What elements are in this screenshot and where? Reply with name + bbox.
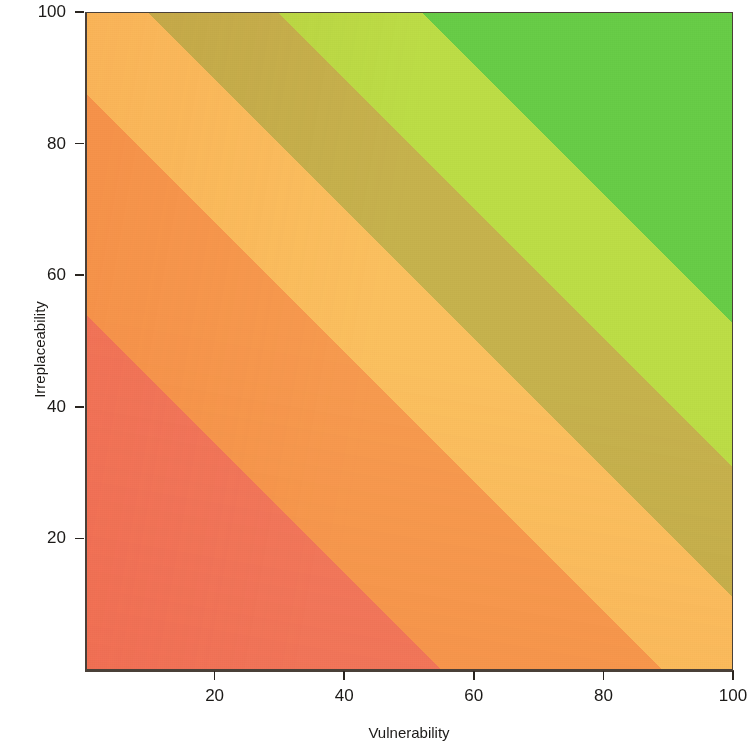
x-tick-label: 100 [719, 686, 747, 706]
x-tick-label: 40 [335, 686, 354, 706]
heatmap-surface [86, 13, 732, 669]
x-tick-label: 60 [464, 686, 483, 706]
plot-panel [85, 12, 733, 670]
y-tick-label: 100 [0, 2, 66, 22]
x-tick-label: 80 [594, 686, 613, 706]
x-tick-mark [343, 671, 345, 680]
x-axis-line [85, 670, 734, 672]
x-tick-mark [732, 671, 734, 680]
x-tick-label: 20 [205, 686, 224, 706]
y-axis-title: Irreplaceability [31, 225, 48, 475]
y-tick-mark [75, 11, 84, 13]
y-tick-mark [75, 274, 84, 276]
y-tick-mark [75, 538, 84, 540]
y-tick-label: 80 [0, 134, 66, 154]
y-tick-mark [75, 406, 84, 408]
x-axis-title: Vulnerability [85, 724, 733, 741]
y-axis-line [85, 12, 87, 671]
chart-figure: 20406080100 20406080100 Vulnerability Ir… [0, 0, 750, 755]
x-tick-mark [473, 671, 475, 680]
x-tick-mark [214, 671, 216, 680]
y-tick-label: 20 [0, 528, 66, 548]
y-tick-mark [75, 143, 84, 145]
x-tick-mark [603, 671, 605, 680]
